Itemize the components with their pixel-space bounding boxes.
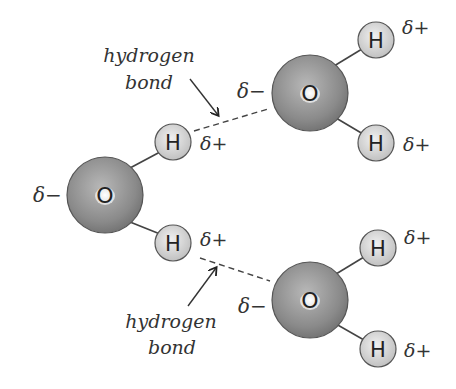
- water-hydrogen-bond-diagram: O δ− H δ+ H δ+ O δ− H δ+ H δ+ O δ− H δ+ …: [0, 0, 456, 389]
- hydrogen-label: H: [165, 131, 181, 155]
- bond-tr-o-h2: [336, 118, 363, 134]
- molecule-top-right: O δ− H δ+ H δ+: [237, 16, 430, 161]
- hydrogen-label: H: [370, 237, 386, 261]
- diagram-svg: O δ− H δ+ H δ+ O δ− H δ+ H δ+ O δ− H δ+ …: [0, 0, 456, 389]
- charge-label: δ+: [404, 339, 431, 361]
- oxygen-label: O: [301, 288, 318, 313]
- bond-br-o-h2: [336, 324, 364, 340]
- molecule-bottom-right: O δ− H δ+ H δ+: [238, 226, 431, 367]
- charge-label: δ+: [404, 226, 431, 248]
- arrow-bottom-icon: [188, 268, 216, 306]
- oxygen-label: O: [96, 183, 113, 208]
- annotation-line2: bond: [125, 71, 173, 93]
- bond-left-o-h2: [130, 222, 160, 234]
- charge-label: δ−: [33, 183, 62, 207]
- arrow-top-icon: [190, 79, 218, 115]
- oxygen-label: O: [301, 81, 318, 106]
- hydrogen-bond-top: [194, 109, 268, 131]
- charge-label: δ+: [200, 132, 227, 154]
- charge-label: δ+: [402, 16, 429, 38]
- bond-left-o-h1: [130, 152, 160, 168]
- annotation-top: hydrogen bond: [103, 44, 194, 93]
- hydrogen-bond-bottom: [200, 258, 270, 281]
- charge-label: δ+: [200, 228, 227, 250]
- molecule-left: O δ− H δ+ H δ+: [33, 124, 227, 261]
- annotation-line1: hydrogen: [125, 310, 216, 332]
- annotation-bottom: hydrogen bond: [125, 310, 216, 358]
- bond-tr-o-h1: [334, 49, 362, 66]
- hydrogen-label: H: [370, 338, 386, 362]
- hydrogen-label: H: [165, 232, 181, 256]
- bond-br-o-h1: [336, 257, 364, 274]
- charge-label: δ−: [237, 79, 266, 103]
- hydrogen-label: H: [368, 132, 384, 156]
- hydrogen-label: H: [368, 29, 384, 53]
- annotation-line1: hydrogen: [103, 44, 194, 66]
- charge-label: δ+: [403, 133, 430, 155]
- charge-label: δ−: [238, 294, 267, 318]
- annotation-line2: bond: [148, 336, 196, 358]
